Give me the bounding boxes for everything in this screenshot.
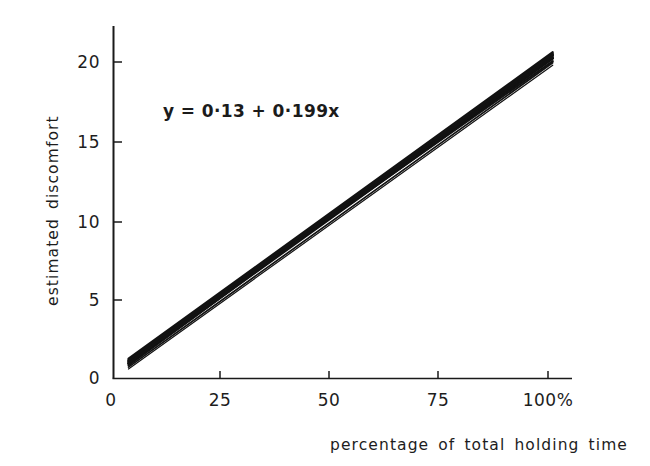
y-tick-label-15: 15 xyxy=(58,134,100,151)
x-tick-label-100: 100% xyxy=(518,392,578,409)
x-tick-label-25: 25 xyxy=(195,392,245,409)
y-axis-ticks xyxy=(114,62,123,300)
y-tick-label-0: 0 xyxy=(58,370,100,387)
regression-equation-annotation: y = 0·13 + 0·199x xyxy=(163,101,340,121)
x-tick-label-0: 0 xyxy=(86,392,136,409)
regression-line-bundle xyxy=(128,52,552,369)
x-axis-ticks xyxy=(220,371,548,379)
y-axis-title: estimated discomfort xyxy=(44,6,62,306)
chart-figure: 0 5 10 15 20 0 25 50 75 100% y = 0·13 + … xyxy=(0,0,650,466)
y-tick-label-20: 20 xyxy=(58,54,100,71)
y-tick-label-5: 5 xyxy=(58,292,100,309)
y-tick-label-10: 10 xyxy=(58,214,100,231)
x-axis-title: percentage of total holding time xyxy=(330,436,628,454)
x-tick-label-50: 50 xyxy=(304,392,354,409)
regression-line xyxy=(128,52,552,359)
x-tick-label-75: 75 xyxy=(413,392,463,409)
